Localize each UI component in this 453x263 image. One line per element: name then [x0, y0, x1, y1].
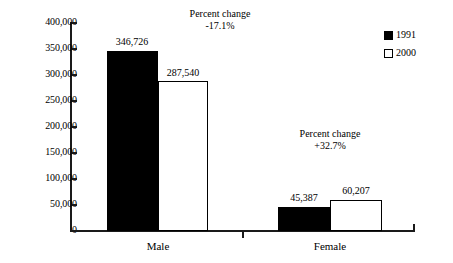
y-tick-label-400000: 400,000 [15, 17, 77, 27]
bar-value-female-2000: 60,207 [316, 185, 396, 196]
y-tick-mark-250000 [72, 100, 77, 102]
y-tick-mark-50000 [72, 204, 77, 206]
legend-swatch-2000-icon [384, 49, 393, 58]
annotation-male-title: Percent change [160, 8, 280, 20]
y-tick-mark-200000 [72, 126, 77, 128]
legend-label-1991: 1991 [396, 30, 416, 40]
y-tick-label-300000: 300,000 [15, 69, 77, 79]
y-tick-50000: 50,000 [0, 199, 77, 209]
x-axis-label-male: Male [118, 240, 198, 252]
y-tick-mark-350000 [72, 48, 77, 50]
x-axis-group-separator-tick [242, 231, 244, 238]
y-tick-150000: 150,000 [0, 147, 77, 157]
y-tick-label-50000: 50,000 [15, 199, 77, 209]
y-tick-300000: 300,000 [0, 69, 77, 79]
annotation-male-percent-change: Percent change -17.1% [160, 8, 280, 32]
y-tick-0: 0 [0, 225, 77, 235]
bar-female-1991 [278, 207, 330, 231]
legend-label-2000: 2000 [396, 48, 416, 58]
y-tick-label-100000: 100,000 [15, 173, 77, 183]
x-axis-label-female: Female [290, 240, 370, 252]
annotation-female-title: Percent change [270, 128, 390, 140]
bar-male-1991 [107, 51, 158, 231]
legend-item-1991[interactable]: 1991 [384, 28, 416, 42]
y-tick-label-200000: 200,000 [15, 121, 77, 131]
annotation-female-percent-change: Percent change +32.7% [270, 128, 390, 152]
y-tick-400000: 400,000 [0, 17, 77, 27]
y-tick-label-150000: 150,000 [15, 147, 77, 157]
y-tick-200000: 200,000 [0, 121, 77, 131]
y-tick-mark-150000 [72, 152, 77, 154]
legend-item-2000[interactable]: 2000 [384, 46, 416, 60]
y-tick-mark-300000 [72, 74, 77, 76]
bar-female-2000 [330, 200, 382, 231]
y-tick-250000: 250,000 [0, 95, 77, 105]
y-tick-label-0: 0 [15, 225, 77, 235]
bar-chart-figure: 400,000 350,000 300,000 250,000 200,000 … [0, 0, 453, 263]
x-axis-end-tick [413, 224, 415, 232]
y-tick-350000: 350,000 [0, 43, 77, 53]
y-tick-label-350000: 350,000 [15, 43, 77, 53]
legend: 1991 2000 [384, 28, 416, 64]
y-tick-mark-400000 [72, 22, 77, 24]
annotation-male-value: -17.1% [160, 20, 280, 32]
y-tick-mark-100000 [72, 178, 77, 180]
y-tick-100000: 100,000 [0, 173, 77, 183]
annotation-female-value: +32.7% [270, 140, 390, 152]
bar-male-2000 [158, 81, 208, 231]
y-tick-label-250000: 250,000 [15, 95, 77, 105]
bar-value-male-1991: 346,726 [92, 36, 172, 47]
legend-swatch-1991-icon [384, 31, 393, 40]
bar-value-male-2000: 287,540 [143, 67, 223, 78]
